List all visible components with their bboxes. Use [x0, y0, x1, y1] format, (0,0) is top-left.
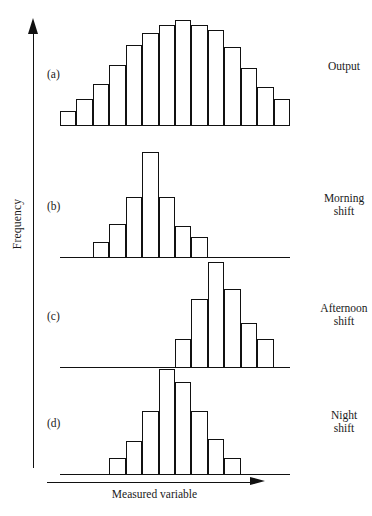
right-arrow-icon [250, 477, 265, 485]
y-axis: Frequency [0, 18, 46, 468]
x-axis-label: Measured variable [47, 488, 262, 500]
histogram-bar [175, 226, 191, 257]
histogram-bar [175, 20, 191, 125]
histogram-bar [208, 439, 224, 474]
histogram-bar [257, 87, 273, 125]
histogram-bar [109, 65, 125, 125]
panel-letter-c: (c) [47, 310, 60, 322]
histogram-bar [257, 339, 273, 367]
histogram-bar [159, 25, 175, 125]
bar-series-b [60, 148, 290, 257]
panel-letter-a: (a) [47, 68, 60, 80]
histogram-bar [76, 99, 92, 125]
histogram-bar [224, 289, 240, 367]
histogram-bar [60, 111, 76, 125]
histogram-bar [191, 299, 207, 367]
baseline-a [60, 125, 290, 126]
histogram-bar [224, 458, 240, 474]
histogram-bar [274, 99, 290, 125]
histogram-bar [241, 323, 257, 367]
panel-caption-output: Output [294, 60, 372, 73]
histogram-bar [142, 152, 158, 257]
histogram-bar [109, 224, 125, 257]
plot-area-d [60, 365, 290, 475]
histogram-bar [93, 84, 109, 125]
histogram-bar [241, 68, 257, 125]
plot-area-c [60, 258, 290, 368]
panel-letter-d: (d) [47, 417, 60, 429]
panel-morning-shift: (b) Morning shift [42, 148, 359, 266]
bar-series-c [60, 258, 290, 367]
histogram-bar [142, 33, 158, 125]
panel-caption-afternoon-shift: Afternoon shift [294, 302, 372, 328]
histogram-bar [175, 339, 191, 367]
histogram-bar [126, 197, 142, 257]
plot-area-b [60, 148, 290, 258]
histogram-bar [93, 242, 109, 257]
panel-night-shift: (d) Night shift [42, 365, 359, 483]
histogram-bar [191, 25, 207, 125]
histogram-bar [159, 197, 175, 257]
panel-caption-night-shift: Night shift [294, 409, 372, 435]
y-axis-label: Frequency [11, 179, 23, 269]
panel-output: (a) Output [42, 16, 359, 134]
x-axis: Measured variable [47, 478, 297, 514]
histogram-bar [142, 411, 158, 474]
histogram-bar [208, 30, 224, 125]
histogram-bar [208, 262, 224, 367]
bar-series-a [60, 16, 290, 125]
histogram-bar [175, 382, 191, 474]
histogram-bar [159, 369, 175, 474]
panel-letter-b: (b) [47, 200, 60, 212]
histogram-bar [191, 237, 207, 257]
histogram-bar [126, 441, 142, 474]
bar-series-d [60, 365, 290, 474]
panel-caption-morning-shift: Morning shift [294, 192, 372, 218]
plot-area-a [60, 16, 290, 126]
histogram-bar [126, 45, 142, 125]
histogram-bar [191, 411, 207, 474]
histogram-bar [224, 47, 240, 125]
histogram-bar [109, 458, 125, 474]
y-axis-line [33, 32, 34, 468]
x-axis-line [47, 482, 252, 483]
baseline-d [60, 474, 290, 475]
panel-afternoon-shift: (c) Afternoon shift [42, 258, 359, 376]
